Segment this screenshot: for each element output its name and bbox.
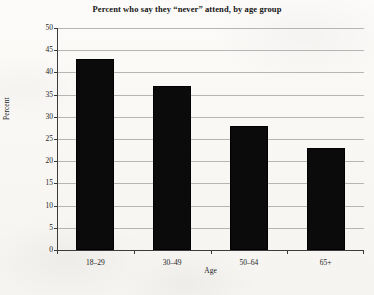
y-tick-label: 35	[27, 91, 53, 99]
y-tick-label: 15	[27, 179, 53, 187]
gridline	[57, 28, 364, 29]
x-tick-mark	[363, 250, 364, 254]
y-tick-label: 30	[27, 113, 53, 121]
y-tick-label: 0	[27, 246, 53, 254]
x-tick-mark	[287, 250, 288, 254]
gridline	[57, 50, 364, 51]
bar-chart: Percent who say they “never” attend, by …	[0, 0, 374, 295]
chart-title: Percent who say they “never” attend, by …	[0, 4, 374, 14]
y-tick-label: 5	[27, 224, 53, 232]
x-axis-title: Age	[57, 266, 364, 275]
x-tick-mark	[57, 250, 58, 254]
y-tick-label: 20	[27, 157, 53, 165]
y-tick-label: 45	[27, 46, 53, 54]
bar	[307, 148, 345, 250]
bar	[76, 59, 114, 250]
y-tick-label: 50	[27, 24, 53, 32]
y-axis-title: Percent	[2, 98, 11, 121]
y-tick-label: 10	[27, 202, 53, 210]
bar	[230, 126, 268, 250]
plot-area: 05101520253035404550 18–2930–4950–6465+	[57, 28, 364, 250]
x-tick-mark	[134, 250, 135, 254]
x-tick-mark	[211, 250, 212, 254]
y-axis-line	[57, 28, 58, 250]
bar	[153, 86, 191, 250]
y-tick-label: 25	[27, 135, 53, 143]
y-tick-label: 40	[27, 68, 53, 76]
